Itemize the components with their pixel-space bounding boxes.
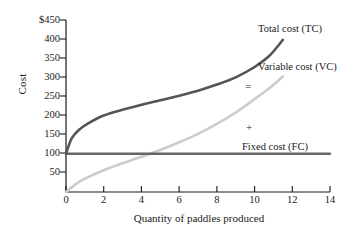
fixed-cost-label: Fixed cost (FC) [242, 141, 308, 152]
x-tick-10: 10 [243, 194, 267, 207]
y-tick-50: 50 [24, 166, 60, 178]
y-tick-450: $450 [24, 14, 60, 26]
y-tick-400: 400 [24, 33, 60, 45]
total-cost-label: Total cost (TC) [258, 23, 322, 34]
y-axis-title: Cost [16, 64, 28, 104]
y-tick-200: 200 [24, 109, 60, 121]
x-tick-14: 14 [318, 194, 342, 207]
x-axis-title: Quantity of paddles produced [66, 212, 332, 224]
cost-curves-figure: $450 400 350 300 250 200 150 100 50 0 2 … [0, 0, 362, 236]
x-tick-0: 0 [54, 194, 78, 207]
x-tick-2: 2 [92, 194, 116, 207]
series-tc-curve [66, 40, 283, 154]
y-axis-ticks [60, 20, 66, 172]
y-tick-300: 300 [24, 71, 60, 83]
series-vc-curve [66, 77, 283, 192]
x-tick-8: 8 [205, 194, 229, 207]
y-tick-150: 150 [24, 128, 60, 140]
x-tick-12: 12 [280, 194, 304, 207]
x-axis-ticks [66, 186, 330, 192]
x-tick-6: 6 [167, 194, 191, 207]
y-tick-100: 100 [24, 147, 60, 159]
equals-symbol: = [245, 80, 251, 92]
y-tick-250: 250 [24, 90, 60, 102]
y-tick-350: 350 [24, 52, 60, 64]
plus-symbol: + [246, 121, 252, 133]
variable-cost-label: Variable cost (VC) [258, 61, 337, 72]
x-tick-4: 4 [129, 194, 153, 207]
